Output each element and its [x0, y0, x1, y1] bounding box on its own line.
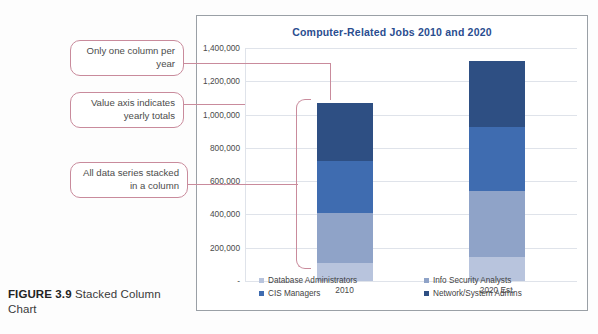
chart-legend: Database AdministratorsInfo Security Ana… [249, 276, 579, 302]
leader-line-value-axis [184, 104, 245, 105]
bar-segment [469, 61, 525, 127]
y-axis-tick-label: 400,000 [210, 209, 240, 219]
grid-line [245, 181, 577, 182]
leader-line-one-column-v [330, 63, 331, 100]
bar-segment [317, 213, 373, 263]
legend-item: Info Security Analysts [414, 276, 579, 285]
figure-page: Computer-Related Jobs 2010 and 2020 -200… [0, 0, 598, 334]
stacked-column-2020 [469, 61, 525, 281]
legend-item: CIS Managers [249, 289, 414, 298]
y-axis-tick-label: 200,000 [210, 243, 240, 253]
bar-segment [469, 191, 525, 257]
plot-area: -200,000400,000600,000800,0001,000,0001,… [245, 48, 577, 281]
grid-line [245, 48, 577, 49]
leader-line-one-column-h [184, 63, 330, 64]
legend-label: Network/System Admins [433, 289, 522, 298]
stacked-column-2010 [317, 103, 373, 281]
legend-label: Info Security Analysts [433, 276, 511, 285]
bar-segment [317, 161, 373, 213]
figure-caption: FIGURE 3.9 Stacked Column Chart [8, 287, 188, 317]
y-axis-tick-label: 800,000 [210, 143, 240, 153]
chart-frame: Computer-Related Jobs 2010 and 2020 -200… [196, 15, 588, 311]
bar-segment [317, 103, 373, 161]
grid-line [245, 148, 577, 149]
callout-value-axis-totals: Value axis indicates yearly totals [70, 92, 184, 128]
grid-line [245, 248, 577, 249]
y-axis-tick-label: 1,400,000 [203, 43, 240, 53]
y-axis-tick-label: 1,200,000 [203, 76, 240, 86]
column-highlight-bracket [296, 99, 311, 269]
grid-line [245, 115, 577, 116]
y-axis-tick-label: - [237, 276, 240, 286]
bar-segment [469, 127, 525, 191]
legend-swatch-icon [424, 291, 429, 296]
legend-item: Network/System Admins [414, 289, 579, 298]
legend-label: Database Administrators [268, 276, 357, 285]
legend-label: CIS Managers [268, 289, 320, 298]
legend-swatch-icon [259, 278, 264, 283]
grid-line [245, 214, 577, 215]
figure-number: FIGURE 3.9 [8, 288, 72, 300]
legend-swatch-icon [259, 291, 264, 296]
chart-title: Computer-Related Jobs 2010 and 2020 [197, 26, 587, 38]
callout-stacked-series: All data series stacked in a column [70, 162, 188, 198]
leader-line-stacked [188, 184, 298, 185]
value-axis [245, 48, 246, 281]
grid-line [245, 81, 577, 82]
callout-one-column-per-year: Only one column per year [70, 40, 184, 76]
legend-swatch-icon [424, 278, 429, 283]
y-axis-tick-label: 1,000,000 [203, 110, 240, 120]
legend-item: Database Administrators [249, 276, 414, 285]
